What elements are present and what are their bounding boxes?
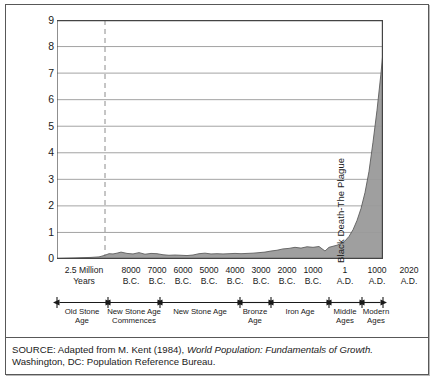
era-label-modern-ages: Modern Ages <box>363 307 389 325</box>
era-3-line2: Age <box>243 316 268 325</box>
era-0-line2: Age <box>65 316 100 325</box>
x-tick-11-line1: 2020 <box>399 265 418 275</box>
x-tick-10-line1: 1000 <box>367 265 386 275</box>
era-4-line1: Iron Age <box>285 307 314 316</box>
era-6-line1: Modern <box>363 307 389 316</box>
x-tick-0-line2: Years <box>65 276 104 287</box>
era-3-line1: Bronze <box>243 307 268 316</box>
x-tick-3-line1: 6000 <box>173 265 192 275</box>
y-tick-1: 1 <box>36 227 54 237</box>
source-note: SOURCE: Adapted from M. Kent (1984), Wor… <box>12 344 422 369</box>
x-axis-labels: 2.5 Million Years 8000 B.C. 7000 B.C. 60… <box>0 265 434 291</box>
era-label-new-stone-age: New Stone Age <box>173 307 227 316</box>
y-tick-5: 5 <box>36 121 54 131</box>
era-brackets: Old Stone Age New Stone Age Commences Ne… <box>0 296 434 334</box>
y-tick-6: 6 <box>36 94 54 104</box>
x-tick-9-line2: A.D. <box>337 276 354 287</box>
x-tick-7-line1: 2000 <box>277 265 296 275</box>
y-tick-9: 9 <box>36 15 54 25</box>
x-tick-5: 4000 B.C. <box>225 265 244 286</box>
y-tick-7: 7 <box>36 68 54 78</box>
era-1-line2: Commences <box>107 316 161 325</box>
x-tick-4-line1: 5000 <box>199 265 218 275</box>
x-tick-2: 7000 B.C. <box>147 265 166 286</box>
x-tick-2-line1: 7000 <box>147 265 166 275</box>
x-tick-7-line2: B.C. <box>277 276 296 287</box>
y-tick-2: 2 <box>36 200 54 210</box>
era-label-new-stone-age-commences: New Stone Age Commences <box>107 307 161 325</box>
era-label-middle-ages: Middle Ages <box>334 307 357 325</box>
source-title: World Population: Fundamentals of Growth… <box>187 344 373 355</box>
x-tick-8: 1000 B.C. <box>303 265 322 286</box>
x-tick-10: 1000 A.D. <box>367 265 386 286</box>
plot-area: Black Death-The Plague <box>57 20 383 259</box>
era-label-iron-age: Iron Age <box>285 307 314 316</box>
era-2-line1: New Stone Age <box>173 307 227 316</box>
population-growth-figure: 9 8 7 6 5 4 3 2 1 0 <box>0 0 434 381</box>
x-tick-4-line2: B.C. <box>199 276 218 287</box>
x-tick-1-line1: 8000 <box>121 265 140 275</box>
era-label-old-stone-age: Old Stone Age <box>65 307 100 325</box>
y-tick-4: 4 <box>36 147 54 157</box>
x-tick-2-line2: B.C. <box>147 276 166 287</box>
x-tick-0: 2.5 Million Years <box>65 265 104 286</box>
x-tick-7: 2000 B.C. <box>277 265 296 286</box>
era-0-line1: Old Stone <box>65 307 100 316</box>
era-1-line1: New Stone Age <box>107 307 161 316</box>
x-tick-11-line2: A.D. <box>399 276 418 287</box>
x-tick-9: 1 A.D. <box>337 265 354 286</box>
era-6-line2: Ages <box>363 316 389 325</box>
x-tick-3-line2: B.C. <box>173 276 192 287</box>
x-tick-6: 3000 B.C. <box>251 265 270 286</box>
y-tick-3: 3 <box>36 174 54 184</box>
annotation-black-death: Black Death-The Plague <box>335 158 346 263</box>
x-tick-1-line2: B.C. <box>121 276 140 287</box>
figure-divider <box>6 337 428 338</box>
x-tick-5-line2: B.C. <box>225 276 244 287</box>
era-5-line1: Middle <box>334 307 357 316</box>
x-tick-5-line1: 4000 <box>225 265 244 275</box>
x-tick-8-line1: 1000 <box>303 265 322 275</box>
x-tick-10-line2: A.D. <box>367 276 386 287</box>
source-suffix: Washington, DC: Population Reference Bur… <box>12 356 215 367</box>
y-tick-0: 0 <box>36 253 54 263</box>
x-tick-6-line2: B.C. <box>251 276 270 287</box>
x-tick-11: 2020 A.D. <box>399 265 418 286</box>
x-tick-6-line1: 3000 <box>251 265 270 275</box>
x-tick-3: 6000 B.C. <box>173 265 192 286</box>
era-label-bronze-age: Bronze Age <box>243 307 268 325</box>
source-prefix: SOURCE: Adapted from M. Kent (1984), <box>12 344 184 355</box>
x-tick-8-line2: B.C. <box>303 276 322 287</box>
x-tick-0-line1: 2.5 Million <box>65 265 104 275</box>
x-tick-1: 8000 B.C. <box>121 265 140 286</box>
era-5-line2: Ages <box>334 316 357 325</box>
y-tick-8: 8 <box>36 41 54 51</box>
x-tick-4: 5000 B.C. <box>199 265 218 286</box>
x-tick-9-line1: 1 <box>343 265 348 275</box>
